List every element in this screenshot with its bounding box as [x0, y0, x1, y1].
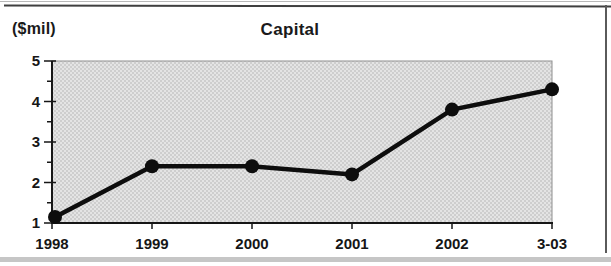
data-point — [48, 210, 62, 224]
x-axis-label: 1999 — [135, 235, 168, 252]
y-axis-label: 5 — [32, 52, 40, 69]
y-axis-label: 4 — [32, 93, 41, 110]
data-point — [345, 167, 359, 181]
y-axis-label: 3 — [32, 133, 40, 150]
scanned-chart-panel: ($mil) Capital 1234519981999200020012002… — [0, 0, 611, 266]
y-axis-label: 1 — [32, 214, 40, 231]
x-axis-label: 3-03 — [537, 235, 567, 252]
x-axis-label: 2002 — [435, 235, 468, 252]
x-axis-label: 2000 — [235, 235, 268, 252]
data-point — [245, 159, 259, 173]
data-point — [445, 103, 459, 117]
capital-line-chart: 12345199819992000200120023-03 — [0, 0, 611, 266]
x-axis-label: 2001 — [335, 235, 368, 252]
data-point — [145, 159, 159, 173]
plot-area — [52, 61, 552, 223]
x-axis-label: 1998 — [35, 235, 68, 252]
data-point — [545, 82, 559, 96]
y-axis-label: 2 — [32, 174, 40, 191]
